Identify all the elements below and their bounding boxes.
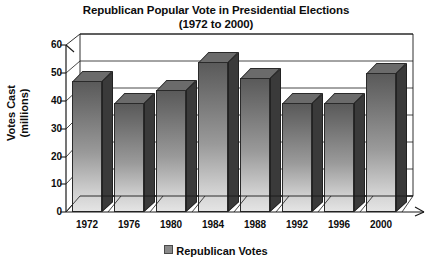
bar-1996[interactable]: [324, 103, 354, 212]
bar-side-face: [228, 52, 239, 212]
bar-side-face: [354, 93, 365, 212]
x-tick-label-1984: 1984: [193, 219, 233, 230]
bar-front-face: [156, 90, 186, 212]
x-tick-label-1988: 1988: [235, 219, 275, 230]
bar-front-face: [366, 73, 396, 212]
bar-front-face: [240, 78, 270, 212]
bar-1972[interactable]: [72, 81, 102, 212]
bar-front-face: [282, 103, 312, 212]
x-tick-label-2000: 2000: [361, 219, 401, 230]
legend-item-republican-votes[interactable]: Republican Votes: [164, 241, 267, 259]
bar-side-face: [186, 80, 197, 212]
bar-front-face: [114, 103, 144, 212]
bar-1988[interactable]: [240, 78, 270, 212]
bar-1980[interactable]: [156, 90, 186, 212]
bar-1984[interactable]: [198, 62, 228, 212]
legend-label: Republican Votes: [176, 245, 267, 257]
x-tick-label-1996: 1996: [319, 219, 359, 230]
bar-side-face: [396, 63, 407, 212]
bar-chart: Republican Popular Vote in Presidential …: [0, 0, 432, 265]
bar-front-face: [72, 81, 102, 212]
legend-swatch-icon: [164, 245, 173, 254]
bar-front-face: [198, 62, 228, 212]
bar-front-face: [324, 103, 354, 212]
x-tick-label-1976: 1976: [109, 219, 149, 230]
bar-1992[interactable]: [282, 103, 312, 212]
bar-side-face: [270, 68, 281, 212]
chart-legend: Republican Votes: [0, 241, 432, 259]
bar-side-face: [312, 93, 323, 212]
bar-2000[interactable]: [366, 73, 396, 212]
plot-area: 60 50 40 30 20 10 0: [0, 0, 432, 265]
bar-1976[interactable]: [114, 103, 144, 212]
x-tick-label-1980: 1980: [151, 219, 191, 230]
x-tick-label-1992: 1992: [277, 219, 317, 230]
x-tick-label-1972: 1972: [67, 219, 107, 230]
bar-side-face: [102, 71, 113, 212]
bar-side-face: [144, 93, 155, 212]
